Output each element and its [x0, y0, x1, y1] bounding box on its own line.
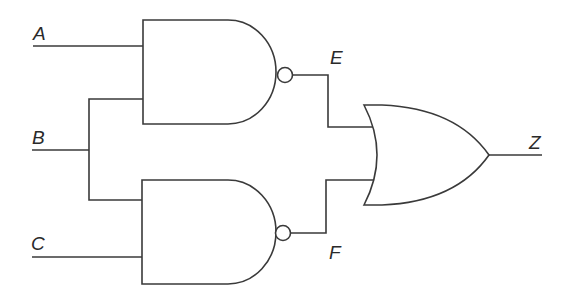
- label-f: F: [329, 242, 342, 263]
- label-a: A: [32, 23, 46, 44]
- label-c: C: [31, 233, 45, 254]
- inversion-bubble-bottom: [276, 226, 291, 241]
- label-z: Z: [528, 132, 542, 153]
- wire-f: [291, 180, 375, 233]
- nand-gate-top: [143, 20, 293, 124]
- inversion-bubble-top: [278, 68, 293, 83]
- or-gate: [364, 105, 489, 205]
- logic-circuit-diagram: A B C E F Z: [0, 0, 565, 300]
- wire-e: [293, 75, 375, 127]
- label-e: E: [330, 47, 343, 68]
- nand-gate-bottom: [142, 180, 291, 284]
- wire-b-branch: [89, 99, 143, 200]
- label-b: B: [32, 127, 45, 148]
